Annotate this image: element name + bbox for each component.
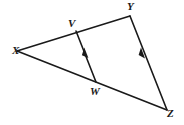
vertex-label-y: Y — [127, 1, 134, 12]
segment-yz — [130, 16, 167, 110]
vertex-label-w: W — [90, 86, 100, 97]
vertex-label-x: X — [12, 45, 19, 56]
vertex-label-z: Z — [167, 108, 174, 119]
vertex-label-v: V — [68, 18, 75, 29]
geometry-figure: X V Y W Z — [0, 0, 184, 125]
segment-xz — [17, 51, 167, 110]
geometry-canvas — [0, 0, 184, 125]
